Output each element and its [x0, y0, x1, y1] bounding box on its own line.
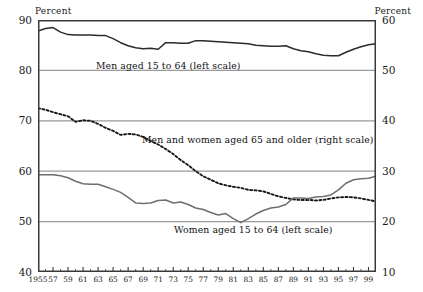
x-axis-tick-label: 89	[286, 276, 300, 283]
x-axis-tick-label: 61	[76, 276, 90, 283]
x-axis-tick-label: 73	[166, 276, 180, 283]
x-axis-tick-label: 71	[151, 276, 165, 283]
x-axis-tick-label: 83	[241, 276, 255, 283]
series-label-women: Women aged 15 to 64 (left scale)	[174, 224, 333, 235]
chart-figure: Percent Percent 908070605040 60504030201…	[0, 0, 423, 292]
x-axis-tick-label: 95	[331, 276, 345, 283]
x-axis-tick-label: 63	[91, 276, 105, 283]
left-axis-tick-label: 80	[6, 65, 32, 76]
right-axis-tick-label: 10	[382, 267, 408, 278]
x-axis-tick-label: 67	[121, 276, 135, 283]
left-axis-tick-label: 60	[6, 166, 32, 177]
x-axis-tick-label: 69	[136, 276, 150, 283]
left-axis-unit-label: Percent	[35, 6, 71, 16]
x-axis-tick-label: 87	[271, 276, 285, 283]
left-axis-tick-label: 90	[6, 15, 32, 26]
x-axis-tick-label: 59	[61, 276, 75, 283]
right-axis-tick-label: 40	[382, 115, 408, 126]
x-axis-tick-label: 57	[46, 276, 60, 283]
series-lines	[38, 28, 376, 223]
left-axis-tick-label: 50	[6, 216, 32, 227]
right-axis-tick-label: 60	[382, 15, 408, 26]
series-label-men: Men aged 15 to 64 (left scale)	[96, 60, 241, 71]
x-axis-tick-label: 85	[256, 276, 270, 283]
x-axis-tick-label: 81	[226, 276, 240, 283]
right-axis-tick-label: 30	[382, 166, 408, 177]
x-axis-tick-label: 93	[316, 276, 330, 283]
x-axis-tick-label: 91	[301, 276, 315, 283]
x-axis-tick-label: 65	[106, 276, 120, 283]
x-axis-tick-label: 79	[211, 276, 225, 283]
series-line-men	[38, 28, 376, 56]
right-axis-tick-label: 20	[382, 216, 408, 227]
right-axis-tick-label: 50	[382, 65, 408, 76]
x-axis-tick-label: 97	[346, 276, 360, 283]
x-axis-tick-label: 75	[181, 276, 195, 283]
series-label-elderly: Men and women aged 65 and older (right s…	[142, 134, 374, 145]
series-line-elderly	[38, 108, 376, 201]
x-axis-tick-label: 77	[196, 276, 210, 283]
x-axis-tick-label: 99	[361, 276, 375, 283]
left-axis-tick-label: 70	[6, 115, 32, 126]
